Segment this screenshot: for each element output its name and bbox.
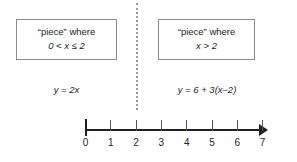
piece-right-condition-title: “piece” where bbox=[178, 26, 236, 39]
piece-left-equation: y = 2x bbox=[16, 84, 117, 95]
number-line-tick-0 bbox=[85, 119, 87, 136]
number-line-tick-5 bbox=[212, 120, 213, 131]
number-line-tick-label-5: 5 bbox=[205, 137, 219, 148]
number-line-tick-label-6: 6 bbox=[230, 137, 244, 148]
piece-right-condition-range: x > 2 bbox=[196, 40, 217, 53]
figure-canvas: “piece” where 0 < x ≤ 2 “piece” where x … bbox=[0, 0, 297, 162]
number-line-axis bbox=[85, 129, 261, 131]
number-line: 01234567 bbox=[0, 112, 297, 162]
number-line-tick-7 bbox=[262, 120, 263, 131]
vertical-dotted-divider bbox=[136, 3, 138, 110]
piece-right-equation: y = 6 + 3(x–2) bbox=[152, 84, 262, 95]
number-line-tick-label-3: 3 bbox=[154, 137, 168, 148]
number-line-tick-4 bbox=[186, 120, 187, 131]
number-line-tick-6 bbox=[237, 120, 238, 131]
number-line-tick-label-0: 0 bbox=[79, 137, 93, 148]
piece-box-right: “piece” where x > 2 bbox=[158, 19, 255, 60]
number-line-tick-label-7: 7 bbox=[256, 137, 270, 148]
number-line-right-arrow-icon bbox=[259, 124, 268, 136]
number-line-tick-label-1: 1 bbox=[104, 137, 118, 148]
number-line-tick-1 bbox=[110, 120, 111, 131]
number-line-tick-label-4: 4 bbox=[180, 137, 194, 148]
number-line-tick-2 bbox=[136, 120, 137, 131]
piece-left-condition-title: “piece” where bbox=[38, 26, 96, 39]
number-line-tick-label-2: 2 bbox=[129, 137, 143, 148]
piece-left-condition-range: 0 < x ≤ 2 bbox=[48, 40, 85, 53]
number-line-tick-3 bbox=[161, 120, 162, 131]
piece-box-left: “piece” where 0 < x ≤ 2 bbox=[16, 19, 117, 60]
